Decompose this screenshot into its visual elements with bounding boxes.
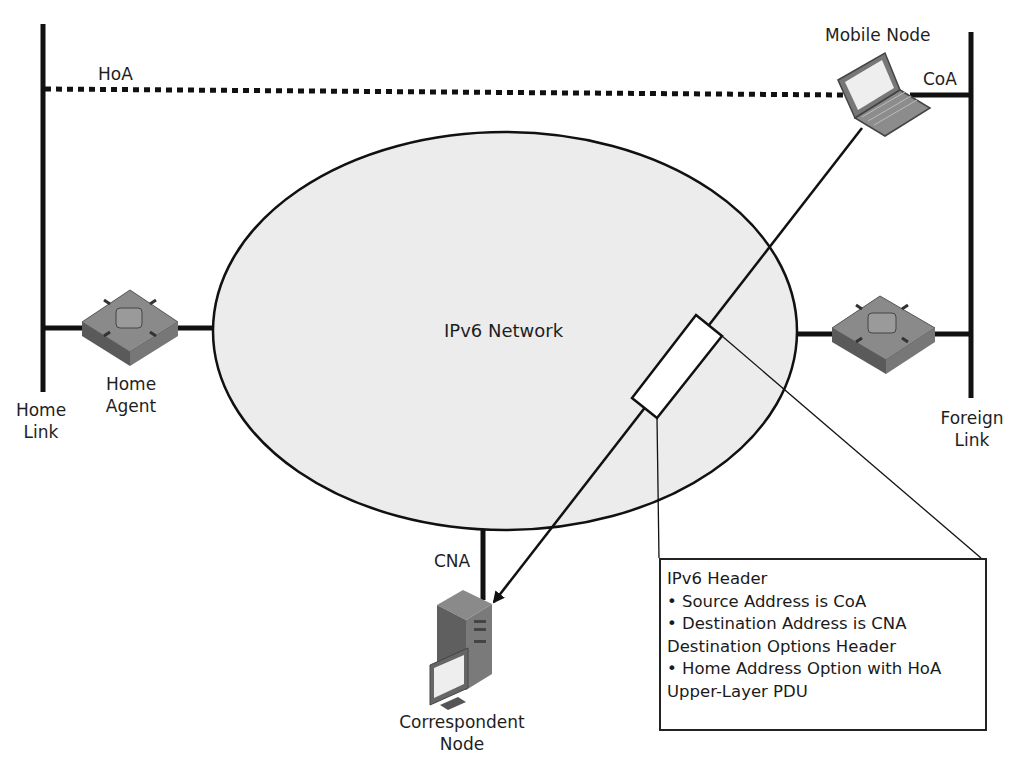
- hoa-label: HoA: [98, 63, 133, 85]
- coa-label: CoA: [923, 68, 957, 90]
- home-link-label-line1: Home: [6, 399, 76, 421]
- correspondent-node-computer-icon: [430, 590, 492, 710]
- packet-contents-callout: IPv6 Header • Source Address is CoA • De…: [659, 558, 987, 731]
- cna-label: CNA: [434, 550, 470, 572]
- home-agent-label-line2: Agent: [96, 395, 166, 417]
- foreign-router-icon: [832, 296, 935, 374]
- callout-line-destination-address: • Destination Address is CNA: [667, 613, 985, 636]
- callout-line-home-address-option: • Home Address Option with HoA: [667, 658, 985, 681]
- ipv6-network-label: IPv6 Network: [444, 320, 563, 342]
- mobile-node-label: Mobile Node: [825, 24, 931, 46]
- hoa-dotted-line: [45, 89, 845, 95]
- foreign-link-label-line1: Foreign: [930, 407, 1014, 429]
- home-agent-label: Home Agent: [96, 373, 166, 417]
- home-agent-label-line1: Home: [96, 373, 166, 395]
- callout-line-ipv6-header: IPv6 Header: [667, 568, 985, 591]
- correspondent-node-label-line2: Node: [392, 733, 532, 755]
- correspondent-node-label-line1: Correspondent: [392, 711, 532, 733]
- foreign-link-label: Foreign Link: [930, 407, 1014, 451]
- home-link-label: Home Link: [6, 399, 76, 443]
- callout-line-source-address: • Source Address is CoA: [667, 591, 985, 614]
- home-agent-router-icon: [82, 290, 178, 366]
- foreign-link-label-line2: Link: [930, 429, 1014, 451]
- correspondent-node-label: Correspondent Node: [392, 711, 532, 755]
- callout-line-upper-layer-pdu: Upper-Layer PDU: [667, 681, 985, 704]
- callout-line-destination-options-header: Destination Options Header: [667, 636, 985, 659]
- home-link-label-line2: Link: [6, 421, 76, 443]
